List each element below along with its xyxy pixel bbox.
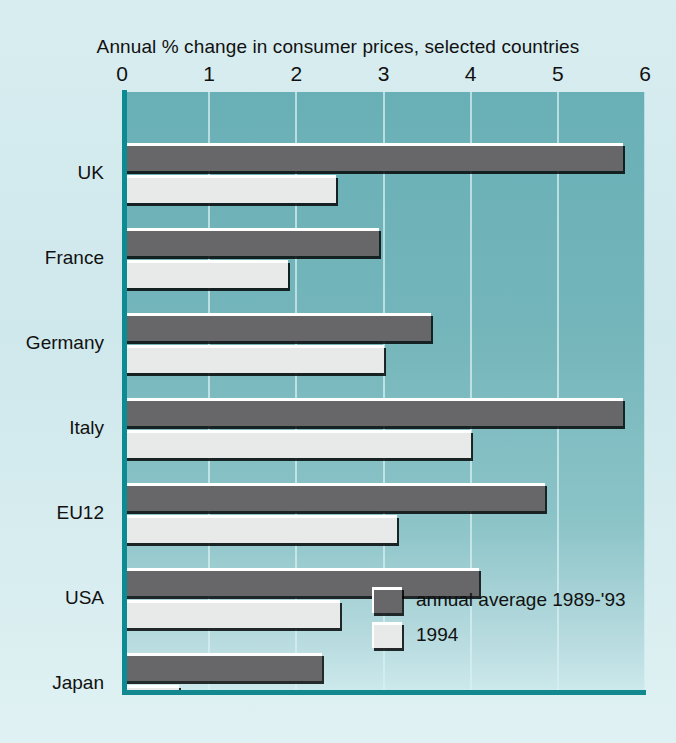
bar-uk-series-2 — [122, 175, 336, 203]
legend-label-1: annual average 1989-'93 — [416, 589, 626, 611]
x-tick-label-6: 6 — [639, 62, 651, 86]
category-label-germany: Germany — [26, 332, 104, 354]
x-tick-label-3: 3 — [378, 62, 390, 86]
legend-swatch-1 — [372, 587, 402, 613]
bar-france-series-1 — [122, 228, 379, 256]
category-label-italy: Italy — [69, 417, 104, 439]
legend: annual average 1989-'931994 — [372, 586, 626, 656]
legend-item-2: 1994 — [372, 621, 626, 649]
x-tick-label-2: 2 — [290, 62, 302, 86]
category-label-usa: USA — [65, 587, 104, 609]
category-label-japan: Japan — [52, 672, 104, 694]
bar-italy-series-1 — [122, 398, 623, 426]
category-label-eu12: EU12 — [56, 502, 104, 524]
chart-title: Annual % change in consumer prices, sele… — [0, 36, 676, 58]
x-axis-tick-labels: 0123456 — [0, 62, 676, 88]
bar-usa-series-2 — [122, 600, 340, 628]
bar-eu12-series-2 — [122, 515, 397, 543]
gridline-6 — [644, 92, 645, 692]
bar-italy-series-2 — [122, 430, 471, 458]
bar-japan-series-1 — [122, 653, 322, 681]
x-tick-label-4: 4 — [465, 62, 477, 86]
x-axis-line — [122, 690, 646, 695]
y-axis-line — [122, 90, 127, 694]
legend-swatch-2 — [372, 622, 402, 648]
chart-card: Annual % change in consumer prices, sele… — [0, 0, 676, 743]
bar-eu12-series-1 — [122, 483, 545, 511]
category-label-france: France — [45, 247, 104, 269]
legend-item-1: annual average 1989-'93 — [372, 586, 626, 614]
x-tick-label-0: 0 — [116, 62, 128, 86]
bar-germany-series-1 — [122, 313, 431, 341]
legend-label-2: 1994 — [416, 624, 458, 646]
bar-france-series-2 — [122, 260, 288, 288]
bar-germany-series-2 — [122, 345, 384, 373]
category-label-uk: UK — [78, 162, 104, 184]
category-axis-labels: UKFranceGermanyItalyEU12USAJapan — [0, 92, 118, 692]
bar-uk-series-1 — [122, 143, 623, 171]
x-tick-label-1: 1 — [203, 62, 215, 86]
x-tick-label-5: 5 — [552, 62, 564, 86]
